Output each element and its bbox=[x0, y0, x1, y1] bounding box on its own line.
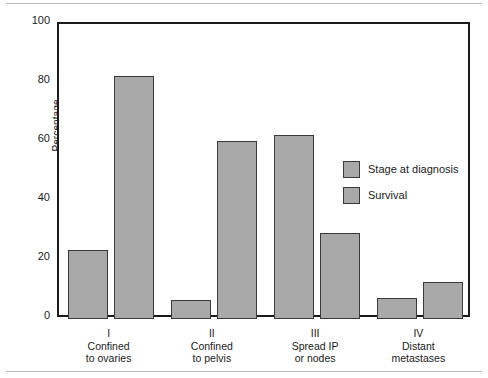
x-label-line1: Distant bbox=[358, 340, 478, 353]
y-axis-tick-label: 100 bbox=[14, 14, 50, 26]
x-label-line1: Spread IP bbox=[255, 340, 375, 353]
y-axis-tick-label: 40 bbox=[14, 191, 50, 203]
legend-item: Survival bbox=[343, 184, 459, 206]
legend-swatch-stage-at-diagnosis bbox=[343, 161, 360, 178]
bar bbox=[171, 300, 211, 319]
x-axis-group-label: IVDistantmetastases bbox=[358, 327, 478, 365]
x-label-line1: Confined bbox=[49, 340, 169, 353]
figure-bar-chart-ovarian-stage-survival: Percentage 100806040200 Stage at diagnos… bbox=[0, 0, 488, 378]
plot-area: Stage at diagnosis Survival bbox=[57, 22, 470, 317]
x-label-line1: Confined bbox=[152, 340, 272, 353]
x-label-line2: or nodes bbox=[255, 352, 375, 365]
y-axis-tick-label: 0 bbox=[14, 309, 50, 321]
page-rule-bottom bbox=[6, 371, 482, 372]
legend-swatch-survival bbox=[343, 187, 360, 204]
x-label-line2: to pelvis bbox=[152, 352, 272, 365]
y-axis-tick-label: 20 bbox=[14, 250, 50, 262]
x-label-roman: IV bbox=[358, 327, 478, 340]
y-axis-tick-label: 80 bbox=[14, 73, 50, 85]
bar bbox=[377, 298, 417, 319]
legend-item: Stage at diagnosis bbox=[343, 158, 459, 180]
bar bbox=[114, 76, 154, 319]
bar bbox=[68, 250, 108, 319]
x-axis-group-label: IIConfinedto pelvis bbox=[152, 327, 272, 365]
x-label-roman: III bbox=[255, 327, 375, 340]
chart-legend: Stage at diagnosis Survival bbox=[343, 158, 459, 210]
legend-label-stage-at-diagnosis: Stage at diagnosis bbox=[368, 163, 459, 175]
x-label-roman: I bbox=[49, 327, 169, 340]
x-label-roman: II bbox=[152, 327, 272, 340]
bar bbox=[217, 141, 257, 319]
page-rule-top bbox=[6, 3, 482, 4]
bar bbox=[274, 135, 314, 319]
bar bbox=[423, 282, 463, 319]
x-axis-group-label: IIISpread IPor nodes bbox=[255, 327, 375, 365]
y-axis-tick-label: 60 bbox=[14, 132, 50, 144]
bar bbox=[320, 233, 360, 319]
legend-label-survival: Survival bbox=[368, 189, 407, 201]
x-label-line2: metastases bbox=[358, 352, 478, 365]
x-axis-group-label: IConfinedto ovaries bbox=[49, 327, 169, 365]
x-label-line2: to ovaries bbox=[49, 352, 169, 365]
